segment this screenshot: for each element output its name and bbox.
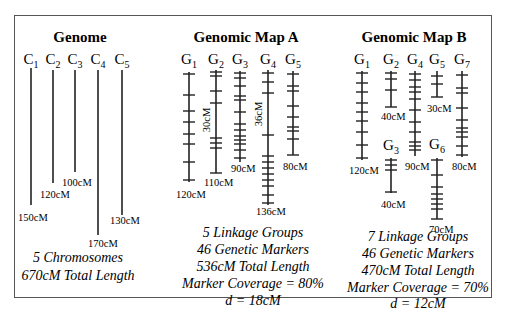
summary-line: 5 Linkage Groups xyxy=(203,225,304,240)
length-label: 100cM xyxy=(62,177,92,188)
group-label: G5 xyxy=(285,51,301,70)
length-label: 80cM xyxy=(452,161,477,172)
summary-line: 46 Genetic Markers xyxy=(362,246,475,261)
linkage-group-g6: G670cM xyxy=(429,136,454,235)
length-label: 120cM xyxy=(40,189,70,200)
linkage-group-g5: G580cM xyxy=(283,51,308,172)
length-label: 90cM xyxy=(231,163,256,174)
length-label: 136cM xyxy=(256,206,286,217)
length-label: 120cM xyxy=(349,165,379,176)
length-label: 80cM xyxy=(283,161,308,172)
summary-line: Marker Coverage = 70% xyxy=(346,280,489,295)
length-label: 110cM xyxy=(204,177,234,188)
length-label: 130cM xyxy=(110,215,140,226)
group-label: C2 xyxy=(45,51,60,70)
group-label: G2 xyxy=(208,51,224,70)
summary-line: 536cM Total Length xyxy=(196,259,309,274)
group-label: C5 xyxy=(114,51,129,70)
group-label: G3 xyxy=(232,51,248,70)
linkage-group-c3: C3100cM xyxy=(62,51,92,188)
length-label: 90cM xyxy=(405,161,430,172)
length-label: 170cM xyxy=(88,238,118,249)
genomic-maps-figure: GenomeC1150cMC2120cMC3100cMC4170cMC5130c… xyxy=(0,0,507,317)
linkage-group-g2: G2110cM30cM xyxy=(201,51,234,188)
length-label: 30cM xyxy=(427,103,452,114)
group-label: G2 xyxy=(383,51,399,70)
panel-title: Genome xyxy=(53,29,107,45)
group-label: C3 xyxy=(67,51,82,70)
panel-map-a: Genomic Map AG1120cMG2110cM30cMG390cMG41… xyxy=(176,29,324,308)
panel-title: Genomic Map B xyxy=(362,29,467,45)
group-label: G1 xyxy=(354,51,370,70)
linkage-group-g4: G4136cM36cM xyxy=(253,51,286,217)
length-label: 120cM xyxy=(176,189,206,200)
linkage-group-g3: G340cM xyxy=(381,137,406,210)
summary-line: 5 Chromosomes xyxy=(33,250,124,265)
linkage-group-g7: G780cM xyxy=(452,51,477,172)
linkage-group-c5: C5130cM xyxy=(110,51,140,226)
interval-label: 30cM xyxy=(201,107,212,132)
panel-map-b: Genomic Map BG1120cMG240cMG340cMG490cMG5… xyxy=(346,29,489,311)
linkage-group-g5: G530cM xyxy=(427,51,452,114)
summary-line: 7 Linkage Groups xyxy=(368,229,469,244)
panel-genome: GenomeC1150cMC2120cMC3100cMC4170cMC5130c… xyxy=(18,29,140,283)
group-label: G6 xyxy=(429,136,445,155)
group-label: G4 xyxy=(407,51,423,70)
interval-label: 36cM xyxy=(253,101,264,126)
linkage-group-g2: G240cM xyxy=(381,51,406,122)
summary-line: d = 18cM xyxy=(225,293,282,308)
group-label: G3 xyxy=(383,137,399,156)
summary-line: 670cM Total Length xyxy=(21,268,134,283)
summary-line: d = 12cM xyxy=(390,296,447,311)
group-label: C1 xyxy=(23,51,38,70)
linkage-group-g1: G1120cM xyxy=(349,51,379,176)
panel-title: Genomic Map A xyxy=(194,29,299,45)
group-label: G7 xyxy=(454,51,470,70)
length-label: 40cM xyxy=(381,199,406,210)
summary-line: 470cM Total Length xyxy=(361,263,474,278)
group-label: C4 xyxy=(90,51,105,70)
length-label: 40cM xyxy=(381,111,406,122)
group-label: G4 xyxy=(260,51,276,70)
summary-line: Marker Coverage = 80% xyxy=(181,276,324,291)
length-label: 150cM xyxy=(18,212,48,223)
group-label: G5 xyxy=(429,51,445,70)
summary-line: 46 Genetic Markers xyxy=(197,242,310,257)
group-label: G1 xyxy=(181,51,197,70)
